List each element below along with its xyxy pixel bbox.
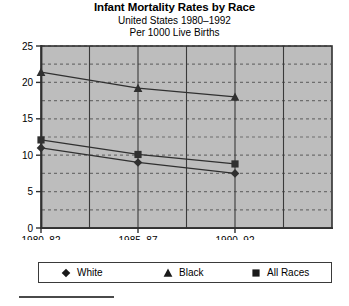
legend-item-all-races[interactable]: All Races xyxy=(251,263,309,282)
legend-marker-square-icon xyxy=(251,268,261,278)
data-point-marker-diamond xyxy=(62,268,71,277)
y-axis-tick-label: 15 xyxy=(22,113,34,124)
x-axis-tick-label: 1990–92 xyxy=(216,235,255,240)
chart-subtitle-units: Per 1000 Live Births xyxy=(0,27,349,38)
data-point-marker-square xyxy=(231,160,238,167)
legend-item-white[interactable]: White xyxy=(61,263,103,282)
chart-title: Infant Mortality Rates by Race xyxy=(0,1,349,13)
data-point-marker-triangle xyxy=(164,268,173,276)
legend-marker-triangle-icon xyxy=(163,268,173,278)
plot-svg: 0510152025 1980–821985–871990–92 xyxy=(0,40,349,240)
legend-label: Black xyxy=(179,267,203,278)
data-point-marker-square xyxy=(134,151,141,158)
x-axis-tick-label: 1985–87 xyxy=(119,235,158,240)
legend-label: White xyxy=(77,267,103,278)
footer-rule xyxy=(19,296,114,298)
chart-subtitle-period: United States 1980–1992 xyxy=(0,15,349,26)
y-axis-tick-label: 20 xyxy=(22,77,34,88)
y-axis-tick-label: 10 xyxy=(22,150,34,161)
y-axis-tick-labels: 0510152025 xyxy=(22,41,34,234)
legend: WhiteBlackAll Races xyxy=(38,262,332,283)
chart-container: Infant Mortality Rates by Race United St… xyxy=(0,0,349,306)
data-point-marker-square xyxy=(252,269,259,276)
y-axis-tick-label: 5 xyxy=(27,186,33,197)
y-axis-tick-label: 0 xyxy=(27,223,33,234)
legend-marker-diamond-icon xyxy=(61,268,71,278)
y-axis-tick-label: 25 xyxy=(22,41,34,52)
x-axis-tick-labels: 1980–821985–871990–92 xyxy=(22,235,255,240)
legend-label: All Races xyxy=(267,267,309,278)
legend-item-black[interactable]: Black xyxy=(163,263,203,282)
plot-area: 0510152025 1980–821985–871990–92 xyxy=(0,40,349,240)
x-axis-tick-label: 1980–82 xyxy=(22,235,61,240)
